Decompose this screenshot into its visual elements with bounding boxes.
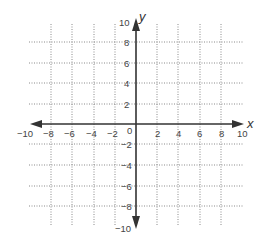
y-axis-down-arrow-icon: [132, 216, 140, 229]
y-tick-label: −10: [115, 223, 131, 234]
y-tick-label: −4: [121, 160, 132, 171]
x-tick-label: 2: [155, 128, 160, 139]
y-tick-label: 2: [124, 99, 129, 110]
y-tick-label: 4: [124, 78, 129, 89]
y-tick-label: 6: [124, 58, 129, 69]
x-axis-right-arrow-icon: [232, 120, 244, 128]
x-tick-label: 10: [237, 128, 248, 139]
y-axis-label: y: [138, 9, 147, 24]
x-axis-left-arrow-icon: [30, 120, 42, 128]
y-tick-label: −8: [121, 201, 132, 212]
x-tick-label: −8: [43, 128, 54, 139]
y-tick-label: 8: [124, 37, 129, 48]
x-tick-label: 0: [127, 125, 132, 136]
x-tick-label: 6: [197, 128, 202, 139]
x-tick-label: −6: [64, 128, 75, 139]
x-tick-label: −4: [86, 128, 97, 139]
x-tick-label: 8: [219, 128, 224, 139]
x-axis: [30, 120, 244, 128]
x-tick-label: 4: [176, 128, 181, 139]
x-tick-labels: −10 −8 −6 −4 −2 0 2 4 6 8 10: [17, 125, 248, 139]
y-tick-label: −6: [121, 181, 132, 192]
y-tick-label: 10: [119, 17, 130, 28]
x-tick-label: −10: [17, 128, 33, 139]
y-tick-label: −2: [121, 139, 132, 150]
coordinate-plane: x y −10 −8 −6 −4 −2 0 2 4 6 8 10 10 8 6 …: [0, 0, 268, 246]
x-tick-label: −2: [107, 128, 118, 139]
